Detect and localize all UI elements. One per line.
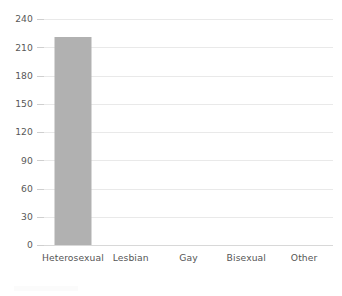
bar-slot [160,19,218,245]
bars-layer [44,19,333,245]
y-axis-tick-mark [37,132,44,133]
y-axis-tick-label: 210 [5,43,33,52]
y-axis-tick-label: 0 [5,240,33,249]
bottom-edge-artifact [14,286,78,291]
y-axis-tick-label: 150 [5,99,33,108]
y-axis-tick-mark [37,189,44,190]
y-axis-tick-label: 240 [5,14,33,23]
y-axis-tick-mark [37,217,44,218]
y-axis-tick-label: 120 [5,127,33,136]
bar[interactable] [54,37,91,245]
y-axis-tick-mark [37,160,44,161]
axis-baseline [44,245,333,246]
y-axis-tick-mark [37,19,44,20]
x-axis-category-label: Heterosexual [42,252,104,263]
x-axis-category-label: Gay [179,252,198,263]
y-axis-tick-mark [37,47,44,48]
y-axis-tick-mark [37,104,44,105]
bar-slot [275,19,333,245]
bar-slot [102,19,160,245]
x-axis-category-labels: HeterosexualLesbianGayBisexualOther [44,252,333,268]
y-axis-tick-label: 30 [5,212,33,221]
x-axis-category-label: Other [291,252,318,263]
x-axis-category-label: Bisexual [227,252,266,263]
y-axis-tick-mark [37,76,44,77]
bar-slot [44,19,102,245]
y-axis-tick-labels: 0306090120150180210240 [0,0,33,296]
bar-chart: 0306090120150180210240 HeterosexualLesbi… [0,0,342,296]
bar-slot [217,19,275,245]
x-axis-category-label: Lesbian [113,252,149,263]
y-axis-tick-mark [37,245,44,246]
y-axis-tick-label: 180 [5,71,33,80]
y-axis-tick-label: 90 [5,156,33,165]
y-axis-tick-label: 60 [5,184,33,193]
